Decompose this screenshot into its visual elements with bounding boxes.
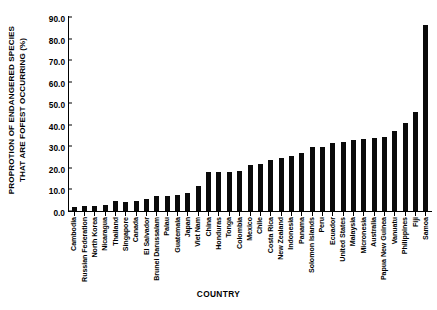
y-axis-tick-label: 50.0 <box>49 100 69 110</box>
x-axis-label-slot: Solomon Islands <box>307 217 317 287</box>
x-axis-tick <box>162 212 172 216</box>
y-axis-tick-label: 60.0 <box>49 79 69 89</box>
x-axis-tick-label: Costa Rica <box>267 217 275 253</box>
x-axis-tick-label: Guatemala <box>174 217 182 253</box>
bar <box>82 206 87 211</box>
x-axis-tick-mark <box>312 212 313 216</box>
bar-slot <box>421 17 431 211</box>
x-axis-tick-mark <box>322 212 323 216</box>
bar-slot <box>276 17 286 211</box>
y-axis-tick-label: 0.0 <box>53 208 69 218</box>
x-axis-label-slot: Chile <box>255 217 265 287</box>
x-axis-tick <box>203 212 213 216</box>
bar <box>113 201 118 211</box>
x-axis-tick-labels: CambodiaRussian FederationNorth KoreaNic… <box>69 217 431 287</box>
x-axis-tick-label: Thailand <box>112 217 120 246</box>
bar-slot <box>328 17 338 211</box>
x-axis-label-slot: Malaysia <box>348 217 358 287</box>
x-axis-tick <box>255 212 265 216</box>
x-axis-tick-label: Samoa <box>422 217 430 240</box>
x-axis-tick-label: Panama <box>298 217 306 244</box>
x-axis-label-slot: Ecuador <box>328 217 338 287</box>
bar-slot <box>193 17 203 211</box>
y-axis-tick-label: 90.0 <box>49 14 69 24</box>
x-axis-label-slot: El Salvador <box>141 217 151 287</box>
y-axis-tick: 0.0 <box>53 202 69 220</box>
x-axis-tick <box>214 212 224 216</box>
x-axis-tick-mark <box>177 212 178 216</box>
x-axis-label-slot: Vanuatu <box>390 217 400 287</box>
bar <box>196 186 201 211</box>
bar-slot <box>162 17 172 211</box>
bar-slot <box>400 17 410 211</box>
x-axis-label-slot: Peru <box>317 217 327 287</box>
y-axis-tick-label: 70.0 <box>49 57 69 67</box>
bar <box>103 205 108 211</box>
y-axis-tick: 70.0 <box>49 51 69 69</box>
x-axis-tick-label: United States <box>339 217 347 262</box>
y-axis-tick: 90.0 <box>49 8 69 26</box>
y-axis-tick-label: 30.0 <box>49 143 69 153</box>
x-axis-tick <box>276 212 286 216</box>
bar <box>310 147 315 211</box>
x-axis-tick-label: New Zealand <box>277 217 285 260</box>
bar <box>248 165 253 211</box>
x-axis-tick-mark <box>136 212 137 216</box>
x-axis-tick-mark <box>332 212 333 216</box>
bar-slot <box>90 17 100 211</box>
x-axis-label-slot: Brunei Darussalam <box>152 217 162 287</box>
y-axis-tick: 50.0 <box>49 94 69 112</box>
bar <box>413 112 418 211</box>
bar-slot <box>379 17 389 211</box>
y-axis-title-line1: PROPROTION OF ENDANGERED SPECIES <box>7 26 16 194</box>
x-axis-label-slot: United States <box>338 217 348 287</box>
y-axis-tick: 10.0 <box>49 180 69 198</box>
x-axis-tick-label: Vanuatu <box>391 217 399 244</box>
x-axis-tick-label: Cambodia <box>70 217 78 251</box>
bar <box>237 171 242 211</box>
x-axis-tick <box>121 212 131 216</box>
x-axis-tick-mark <box>270 212 271 216</box>
x-axis-tick-mark <box>218 212 219 216</box>
bar-slot <box>100 17 110 211</box>
x-axis-tick <box>400 212 410 216</box>
x-axis-tick-mark <box>84 212 85 216</box>
x-axis-tick-mark <box>167 212 168 216</box>
x-axis-tick <box>172 212 182 216</box>
x-axis-tick-label: Brunei Darussalam <box>153 217 161 281</box>
x-axis-tick-label: Japan <box>184 217 192 237</box>
bar <box>423 25 428 211</box>
x-axis-label-slot: Costa Rica <box>266 217 276 287</box>
x-axis-label-slot: Cambodia <box>69 217 79 287</box>
x-axis-tick-mark <box>115 212 116 216</box>
x-axis-tick-mark <box>250 212 251 216</box>
x-axis-label-slot: Palau <box>162 217 172 287</box>
bar <box>72 207 77 211</box>
bar <box>403 123 408 211</box>
x-axis-tick-mark <box>187 212 188 216</box>
x-axis-tick-mark <box>353 212 354 216</box>
x-axis-tick-label: China <box>205 217 213 236</box>
x-axis-tick-mark <box>394 212 395 216</box>
x-axis-tick-mark <box>291 212 292 216</box>
x-axis-tick-label: Peru <box>318 217 326 233</box>
x-axis-tick-mark <box>415 212 416 216</box>
x-axis-tick-label: Russian Federation <box>81 217 89 282</box>
bar-slot <box>131 17 141 211</box>
x-axis-tick <box>421 212 431 216</box>
x-axis-tick <box>193 212 203 216</box>
x-axis-tick-mark <box>374 212 375 216</box>
bar <box>144 199 149 211</box>
bar-slot <box>69 17 79 211</box>
x-axis-tick <box>90 212 100 216</box>
bar <box>289 156 294 211</box>
x-axis-tick-label: North Korea <box>91 217 99 257</box>
x-axis-label-slot: Singapore <box>121 217 131 287</box>
bar <box>123 202 128 211</box>
y-axis-tick-label: 10.0 <box>49 186 69 196</box>
bar-slot <box>172 17 182 211</box>
x-axis-label-slot: Guatemala <box>172 217 182 287</box>
x-axis-ticks <box>69 212 431 216</box>
x-axis-tick-mark <box>229 212 230 216</box>
x-axis-tick <box>266 212 276 216</box>
